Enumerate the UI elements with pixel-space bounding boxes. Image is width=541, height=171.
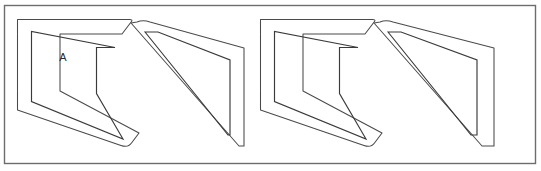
figure-canvas: A [0, 0, 541, 171]
shape-1-label: A [59, 51, 67, 63]
outer-border-rect [5, 6, 536, 164]
line-drawing-svg: A [0, 0, 541, 171]
